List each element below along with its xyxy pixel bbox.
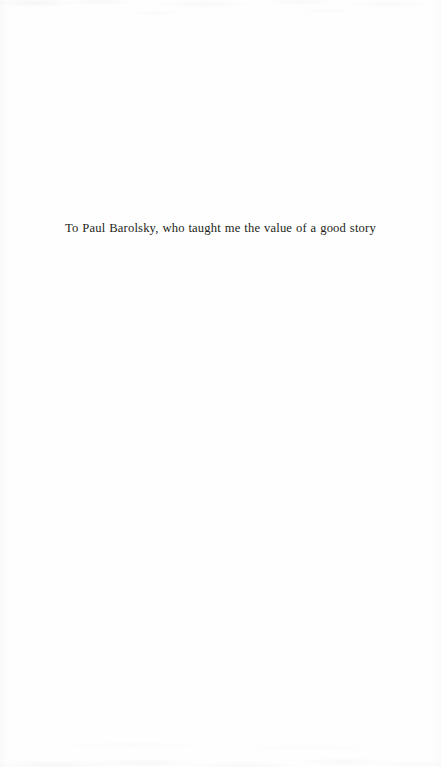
dedication-block: To Paul Barolsky, who taught me the valu… — [0, 218, 441, 236]
dedication-text: To Paul Barolsky, who taught me the valu… — [65, 220, 376, 236]
dedication-page: To Paul Barolsky, who taught me the valu… — [0, 0, 441, 767]
scan-noise-right-edge — [429, 0, 441, 767]
scan-noise-bottom-edge — [0, 707, 441, 767]
scan-noise-left-edge — [0, 0, 10, 767]
scan-noise-top-edge — [0, 0, 441, 34]
